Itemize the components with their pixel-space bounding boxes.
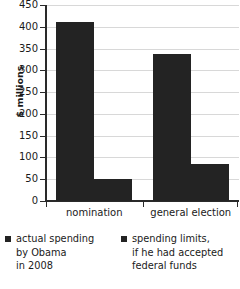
bar-2-2 [191, 164, 229, 201]
y-tick-label: 400 [10, 22, 38, 32]
legend-line-1: actual spending [16, 233, 94, 244]
legend-line-3: in 2008 [16, 260, 53, 271]
x-category-label: general election [143, 207, 240, 218]
x-tick-mark [237, 201, 238, 207]
bar-chart: $ millions 050100150200250300350400450 n… [0, 0, 239, 289]
legend-line-2: if he had accepted [132, 247, 223, 258]
bars-layer [46, 5, 239, 201]
y-tick-label: 450 [10, 0, 38, 10]
y-axis-tick-labels: 050100150200250300350400450 [8, 0, 38, 200]
y-tick-label: 250 [10, 87, 38, 97]
y-tick-label: 300 [10, 65, 38, 75]
y-tick-label: 100 [10, 152, 38, 162]
bar-2-1 [153, 54, 191, 201]
legend-line-1: spending limits, [132, 233, 210, 244]
legend-swatch-icon [121, 236, 127, 242]
plot-area: $ millions 050100150200250300350400450 n… [0, 0, 239, 212]
bar-1-2 [94, 179, 132, 201]
legend-swatch-icon [5, 236, 11, 242]
y-tick-label: 350 [10, 44, 38, 54]
chart-legend: actual spending by Obama in 2008 spendin… [0, 232, 239, 289]
legend-label-actual-spending: actual spending by Obama in 2008 [16, 232, 94, 273]
legend-line-2: by Obama [16, 247, 67, 258]
y-tick-label: 50 [10, 174, 38, 184]
x-category-label: nomination [46, 207, 143, 218]
x-tick-mark [46, 201, 47, 207]
legend-item-actual-spending: actual spending by Obama in 2008 [5, 232, 117, 273]
x-tick-mark [143, 201, 144, 207]
legend-line-3: federal funds [132, 260, 197, 271]
y-tick-label: 0 [10, 196, 38, 206]
bar-1-1 [56, 22, 94, 201]
legend-item-spending-limits: spending limits, if he had accepted fede… [121, 232, 239, 273]
y-tick-label: 150 [10, 131, 38, 141]
legend-label-spending-limits: spending limits, if he had accepted fede… [132, 232, 223, 273]
y-tick-label: 200 [10, 109, 38, 119]
